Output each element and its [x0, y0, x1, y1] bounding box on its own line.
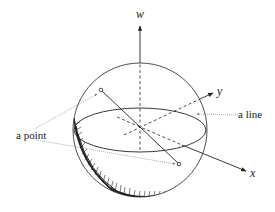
y-axis-dashed [124, 99, 200, 135]
point-upper [99, 88, 103, 92]
y-axis [200, 93, 213, 99]
w-axis-label: w [136, 7, 144, 21]
a-line-label: a line [238, 108, 262, 120]
y-axis-label: y [216, 84, 223, 98]
point-lower [177, 162, 181, 166]
line-leader [197, 114, 238, 115]
sphere-figure: w y x a point a line [0, 0, 275, 212]
x-axis [182, 145, 246, 171]
point-leader-lower [36, 140, 175, 164]
x-axis-dashed [117, 117, 182, 145]
sphere-shading [74, 118, 172, 198]
point-leader-upper [36, 94, 97, 128]
a-point-label: a point [16, 129, 46, 141]
x-axis-label: x [249, 166, 256, 180]
